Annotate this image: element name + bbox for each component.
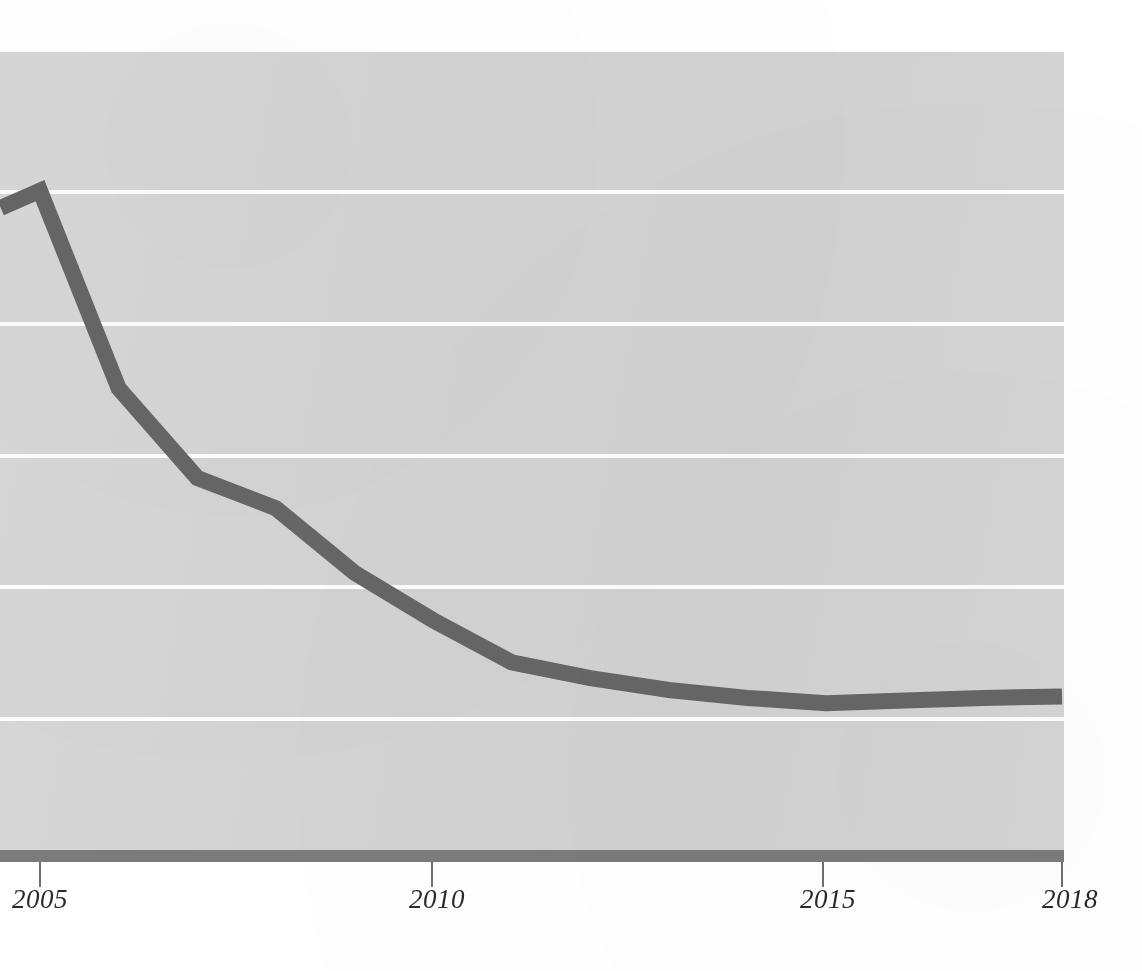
plot-area [0,52,1064,850]
gridline [0,454,1064,458]
x-tick-label-2018: 2018 [1042,884,1098,915]
gridline [0,322,1064,326]
chart-figure: 2005 2010 2015 2018 2004.5:3.88, 2005:4.… [0,0,1142,971]
gridline [0,585,1064,589]
gridline [0,717,1064,721]
gridline [0,190,1064,194]
x-tick-label-2005: 2005 [12,884,68,915]
x-tick-label-2010: 2010 [409,884,465,915]
x-axis-bar [0,850,1064,862]
panel-shading [0,52,1064,850]
x-tick-label-2015: 2015 [800,884,856,915]
